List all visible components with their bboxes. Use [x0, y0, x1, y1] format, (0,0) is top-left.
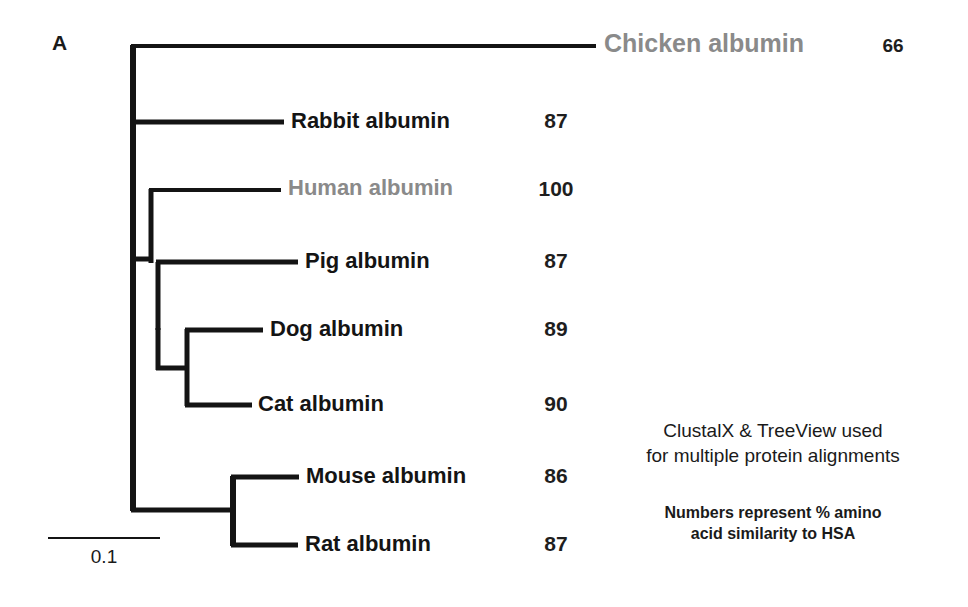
note-legend-line2: acid similarity to HSA: [618, 524, 928, 544]
similarity-value-mouse: 86: [523, 465, 589, 486]
similarity-value-rabbit: 87: [523, 110, 589, 131]
similarity-value-pig: 87: [523, 250, 589, 271]
note-software-line2: for multiple protein alignments: [618, 444, 928, 468]
taxon-label-mouse: Mouse albumin: [306, 465, 466, 487]
taxon-label-chicken: Chicken albumin: [604, 31, 804, 56]
taxon-label-rabbit: Rabbit albumin: [291, 110, 450, 132]
scale-bar-label: 0.1: [44, 547, 164, 566]
panel-letter-a: A: [52, 32, 67, 53]
taxon-label-human: Human albumin: [288, 177, 453, 199]
taxon-label-pig: Pig albumin: [305, 250, 430, 272]
similarity-value-chicken: 66: [860, 36, 926, 55]
figure-canvas: A Chicken albumin 66 Rabbit albumin 87 H…: [0, 0, 968, 607]
note-legend-line1: Numbers represent % amino: [618, 503, 928, 523]
note-software-line1: ClustalX & TreeView used: [618, 419, 928, 443]
similarity-value-human: 100: [523, 178, 589, 199]
taxon-label-dog: Dog albumin: [270, 318, 403, 340]
taxon-label-cat: Cat albumin: [258, 393, 384, 415]
similarity-value-cat: 90: [523, 393, 589, 414]
similarity-value-rat: 87: [523, 533, 589, 554]
similarity-value-dog: 89: [523, 318, 589, 339]
taxon-label-rat: Rat albumin: [305, 533, 431, 555]
